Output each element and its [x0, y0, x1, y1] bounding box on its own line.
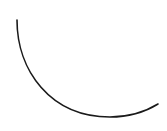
arc-canvas [0, 0, 167, 131]
curved-arc [17, 20, 158, 117]
